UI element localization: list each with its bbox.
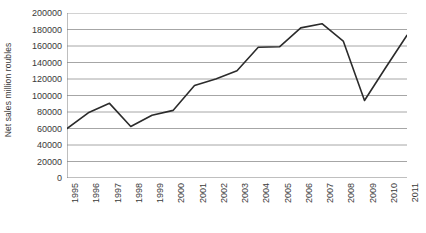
x-tick-label: 1999	[156, 183, 165, 203]
x-tick-label: 1997	[114, 183, 123, 203]
y-tick-label: 120000	[32, 75, 62, 84]
y-tick-label: 200000	[32, 9, 62, 18]
series-polyline	[67, 24, 407, 129]
x-tick-label: 2001	[199, 183, 208, 203]
y-tick-label: 100000	[32, 91, 62, 100]
x-tick-label: 2000	[177, 183, 186, 203]
y-tick-label: 160000	[32, 42, 62, 51]
plot-area	[67, 13, 407, 178]
x-tick-label: 2010	[390, 183, 399, 203]
x-tick-label: 2011	[411, 183, 420, 202]
y-tick-label: 140000	[32, 58, 62, 67]
x-tick-label: 2008	[347, 183, 356, 203]
y-axis-title-label: Net sales million roubles	[3, 43, 13, 138]
x-tick-label: 1995	[71, 183, 80, 203]
y-tick-label: 40000	[37, 141, 62, 150]
x-tick-label: 2009	[369, 183, 378, 203]
x-tick-label: 1996	[92, 183, 101, 203]
y-tick-label: 80000	[37, 108, 62, 117]
y-tick-label: 0	[57, 174, 62, 183]
y-axis-title: Net sales million roubles	[0, 0, 16, 180]
x-tick-label: 2004	[262, 183, 271, 203]
x-axis-tick-labels: 1995199619971998199920002001200220032004…	[67, 183, 407, 231]
x-tick-label: 2005	[284, 183, 293, 203]
line-chart: Net sales million roubles 02000040000600…	[0, 0, 426, 233]
y-tick-label: 180000	[32, 25, 62, 34]
y-axis-tick-labels: 0200004000060000800001000001200001400001…	[16, 0, 65, 190]
x-tick-label: 2007	[326, 183, 335, 203]
x-tick-label: 1998	[135, 183, 144, 203]
y-tick-label: 60000	[37, 124, 62, 133]
x-tick-label: 2003	[241, 183, 250, 203]
x-tick-label: 2002	[220, 183, 229, 203]
data-series-line	[67, 13, 407, 178]
x-tick-label: 2006	[305, 183, 314, 203]
y-tick-label: 20000	[37, 157, 62, 166]
